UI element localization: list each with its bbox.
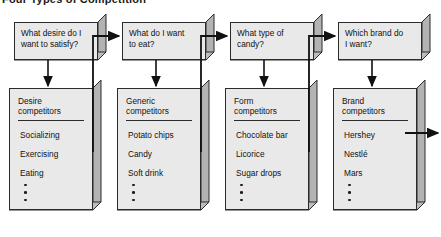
- competitor-box-3-head-line1: Form: [234, 96, 302, 106]
- competitor-box-1-item-3: Eating: [18, 168, 86, 178]
- competitor-box-3-item-1: Chocolate bar: [234, 130, 302, 140]
- competitor-box-3-face: Form competitors Chocolate bar Licorice …: [225, 88, 309, 210]
- competitor-box-1-item-1: Socializing: [18, 130, 86, 140]
- question-box-4-line2: I want?: [345, 39, 416, 50]
- competitor-box-2-rule: [126, 120, 192, 121]
- diagram-title: Four Types of Competition: [2, 0, 146, 5]
- question-box-2-line1: What do I want: [129, 28, 200, 39]
- question-box-4: Which brand do I want?: [338, 22, 422, 60]
- competitor-box-3-item-2: Licorice: [234, 149, 302, 159]
- competitor-box-2-head-line2: competitors: [126, 106, 194, 116]
- competitor-box-4-head-line1: Brand: [342, 96, 410, 106]
- competitor-box-4-rule: [342, 120, 408, 121]
- competitor-box-3-rule: [234, 120, 300, 121]
- competitor-box-2-item-1: Potato chips: [126, 130, 194, 140]
- competitor-box-3-ellipsis: [240, 184, 302, 202]
- question-box-4-face: Which brand do I want?: [338, 22, 422, 60]
- question-box-1-line1: What desire do I: [21, 28, 92, 39]
- competitor-box-2-item-2: Candy: [126, 149, 194, 159]
- question-box-3-line2: candy?: [237, 39, 308, 50]
- competitor-box-2-face: Generic competitors Potato chips Candy S…: [117, 88, 201, 210]
- competitor-box-2-head-line1: Generic: [126, 96, 194, 106]
- question-box-3-face: What type of candy?: [230, 22, 314, 60]
- question-box-3: What type of candy?: [230, 22, 314, 60]
- competitor-box-2-ellipsis: [132, 184, 194, 202]
- competitor-box-1-head-line2: competitors: [18, 106, 86, 116]
- competitor-box-1-rule: [18, 120, 84, 121]
- competitor-box-4-ellipsis: [348, 184, 410, 202]
- competitor-box-1-item-2: Exercising: [18, 149, 86, 159]
- competitor-box-4: Brand competitors Hershey Nestlé Mars: [333, 88, 417, 210]
- question-box-1-line2: want to satisfy?: [21, 39, 92, 50]
- question-box-2: What do I want to eat?: [122, 22, 206, 60]
- competitor-box-3-head-line2: competitors: [234, 106, 302, 116]
- competitor-box-1: Desire competitors Socializing Exercisin…: [9, 88, 93, 210]
- competitor-box-4-face: Brand competitors Hershey Nestlé Mars: [333, 88, 417, 210]
- question-box-2-face: What do I want to eat?: [122, 22, 206, 60]
- competitor-box-4-item-1: Hershey: [342, 130, 410, 140]
- competitor-box-4-item-3: Mars: [342, 168, 410, 178]
- question-box-4-line1: Which brand do: [345, 28, 416, 39]
- competitor-box-1-ellipsis: [24, 184, 86, 202]
- question-box-2-line2: to eat?: [129, 39, 200, 50]
- competitor-box-1-head-line1: Desire: [18, 96, 86, 106]
- question-box-1-face: What desire do I want to satisfy?: [14, 22, 98, 60]
- question-box-1: What desire do I want to satisfy?: [14, 22, 98, 60]
- question-box-3-line1: What type of: [237, 28, 308, 39]
- diagram-canvas: Four Types of Competition What desire do…: [0, 0, 441, 237]
- competitor-box-2-item-3: Soft drink: [126, 168, 194, 178]
- competitor-box-2: Generic competitors Potato chips Candy S…: [117, 88, 201, 210]
- competitor-box-3: Form competitors Chocolate bar Licorice …: [225, 88, 309, 210]
- competitor-box-4-head-line2: competitors: [342, 106, 410, 116]
- competitor-box-4-item-2: Nestlé: [342, 149, 410, 159]
- competitor-box-1-face: Desire competitors Socializing Exercisin…: [9, 88, 93, 210]
- competitor-box-3-item-3: Sugar drops: [234, 168, 302, 178]
